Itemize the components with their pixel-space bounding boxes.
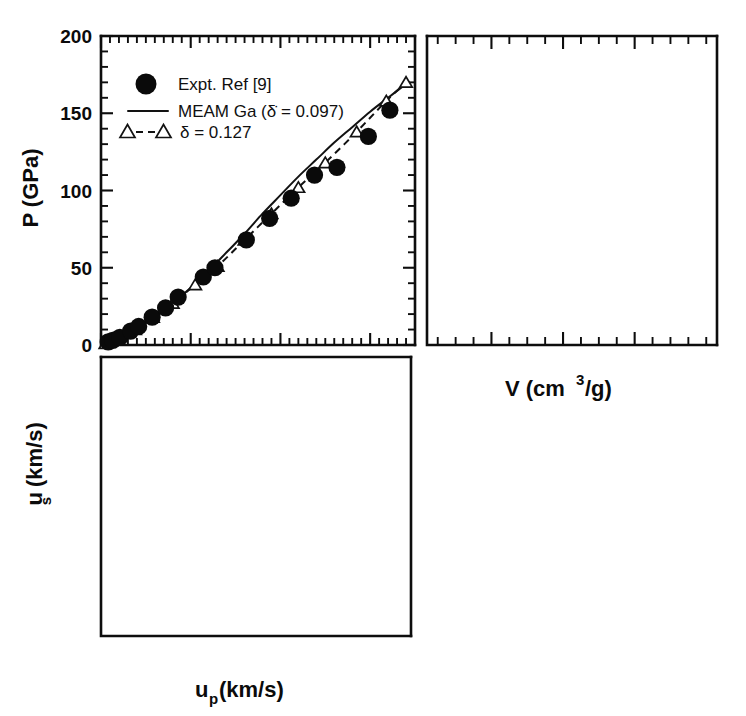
p-axis-title-text: P (GPa) xyxy=(18,148,43,227)
up-axis-title-tail: (km/s) xyxy=(219,677,284,702)
data-point-circle xyxy=(381,102,398,119)
data-point-circle xyxy=(170,289,187,306)
data-point-circle xyxy=(306,166,323,183)
panel-us-vs-up: u s (km/s) u p (km/s) xyxy=(22,357,411,707)
y-tick-label: 0 xyxy=(81,335,92,356)
panel2-frame xyxy=(427,36,717,345)
panel3-frame xyxy=(101,357,411,636)
us-axis-title-tail: (km/s) xyxy=(22,422,47,487)
panel2-ticks xyxy=(438,36,707,345)
up-axis-title-main: u xyxy=(195,677,208,702)
legend-label-delta: δ = 0.127 xyxy=(180,123,251,142)
legend: Expt. Ref [9] MEAM Ga (δ̇ = 0.097) δ = 0… xyxy=(120,74,344,143)
up-axis-title-sub: p xyxy=(209,690,218,707)
panel-p-vs-v: V (cm 3 /g) xyxy=(427,36,717,401)
v-axis-title: V (cm 3 /g) xyxy=(505,371,612,401)
panel1-ticklabels: 050100150200 xyxy=(60,26,92,356)
figure-root: 050100150200 P (GPa) Expt. Ref [9] MEAM … xyxy=(0,0,746,716)
data-point-circle xyxy=(206,259,223,276)
y-tick-label: 50 xyxy=(71,258,92,279)
legend-marker-circle-icon xyxy=(136,74,157,95)
us-axis-title-sub: s xyxy=(37,497,54,505)
legend-label-expt: Expt. Ref [9] xyxy=(178,75,272,94)
data-point-circle xyxy=(261,210,278,227)
us-axis-title: u s (km/s) xyxy=(22,422,54,505)
panel1-curves xyxy=(101,82,406,345)
series-line-delta xyxy=(105,82,406,343)
data-point-circle xyxy=(283,190,300,207)
legend-label-meam: MEAM Ga (δ̇ = 0.097) xyxy=(178,102,344,121)
v-axis-title-tail: /g) xyxy=(585,376,612,401)
v-axis-title-sup: 3 xyxy=(576,371,584,388)
data-point-circle xyxy=(328,159,345,176)
up-axis-title: u p (km/s) xyxy=(195,677,284,707)
p-axis-title: P (GPa) xyxy=(18,148,43,227)
v-axis-title-main: V (cm xyxy=(505,376,565,401)
legend-marker-triangle-right-icon xyxy=(156,125,171,138)
legend-marker-triangle-left-icon xyxy=(120,125,135,138)
series-line-meam xyxy=(101,84,406,345)
y-tick-label: 100 xyxy=(60,181,92,202)
data-point-circle xyxy=(238,231,255,248)
y-tick-label: 150 xyxy=(60,103,92,124)
y-tick-label: 200 xyxy=(60,26,92,47)
shock-hugoniot-figure: 050100150200 P (GPa) Expt. Ref [9] MEAM … xyxy=(0,0,746,716)
data-point-circle xyxy=(360,128,377,145)
panel-p-vs-up: 050100150200 P (GPa) Expt. Ref [9] MEAM … xyxy=(18,26,415,356)
